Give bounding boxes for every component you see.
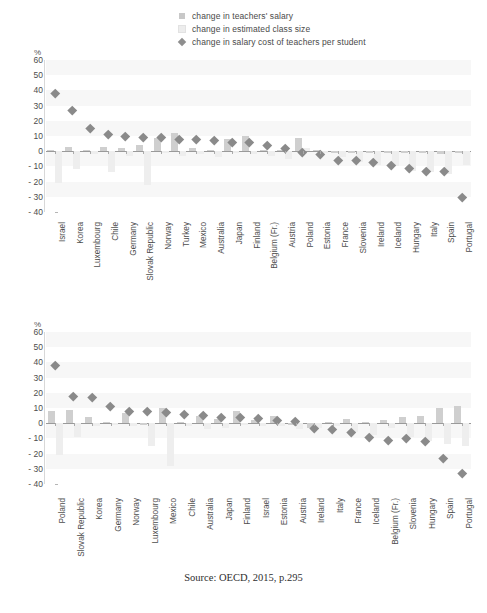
chart-column[interactable] [212, 332, 230, 484]
chart-column[interactable] [258, 60, 276, 212]
y-axis-tick-label: 50 [13, 70, 43, 80]
bar-teachers-salary [362, 422, 369, 424]
chart-column[interactable] [120, 332, 138, 484]
x-axis-tick [369, 423, 370, 426]
bar-teachers-salary [380, 420, 387, 423]
chart-column[interactable] [397, 332, 415, 484]
diamond-salary-cost-per-student [457, 469, 466, 478]
plot-area-lower [46, 332, 471, 484]
chart-column[interactable] [379, 332, 397, 484]
legend-item-salary: change in teachers' salary [176, 9, 476, 22]
x-axis-label-cell: Italy [418, 220, 436, 290]
x-axis-label-cell: Chile [175, 496, 193, 566]
chart-column[interactable] [312, 60, 330, 212]
x-axis-label-cell: Slovenia [347, 220, 365, 290]
diamond-salary-cost-per-student [457, 192, 466, 201]
chart-column[interactable] [360, 332, 378, 484]
bar-teachers-salary [437, 151, 444, 154]
chart-column[interactable] [305, 332, 323, 484]
chart-column[interactable] [135, 60, 153, 212]
chart-column[interactable] [138, 332, 156, 484]
x-axis-tick [214, 151, 215, 154]
x-axis-label-cell: Germany [101, 496, 119, 566]
chart-column[interactable] [157, 332, 175, 484]
x-axis-label-cell: Australia [205, 220, 223, 290]
bar-class-size [215, 151, 222, 157]
chart-column[interactable] [435, 60, 453, 212]
diamond-salary-cost-per-student [180, 409, 189, 418]
chart-column[interactable] [117, 60, 135, 212]
chart-column[interactable] [46, 60, 64, 212]
chart-column[interactable] [170, 60, 188, 212]
y-axis-tick-label: - 30 [13, 464, 43, 474]
diamond-salary-cost-per-student [51, 361, 60, 370]
y-axis-tick-label: - 20 [13, 449, 43, 459]
chart-column[interactable] [400, 60, 418, 212]
bar-teachers-salary [454, 406, 461, 423]
x-axis-tick [232, 151, 233, 154]
chart-column[interactable] [323, 332, 341, 484]
x-axis-label-cell: Spain [434, 496, 452, 566]
chart-column[interactable] [276, 60, 294, 212]
chart-column[interactable] [347, 60, 365, 212]
chart-column[interactable] [175, 332, 193, 484]
chart-column[interactable] [205, 60, 223, 212]
chart-column[interactable] [99, 60, 117, 212]
chart-column[interactable] [294, 60, 312, 212]
chart-column[interactable] [453, 332, 471, 484]
chart-column[interactable] [223, 60, 241, 212]
chart-column[interactable] [81, 60, 99, 212]
chart-column[interactable] [249, 332, 267, 484]
bar-class-size [388, 423, 395, 428]
y-axis-primary: 6050403020100- 10- 20- 30- 40 [10, 60, 43, 212]
bar-teachers-salary [136, 145, 143, 151]
chart-column[interactable] [342, 332, 360, 484]
chart-column[interactable] [194, 332, 212, 484]
chart-column[interactable] [101, 332, 119, 484]
chart-column[interactable] [231, 332, 249, 484]
chart-column[interactable] [416, 332, 434, 484]
x-axis-tick [406, 423, 407, 426]
x-axis-tick [314, 423, 315, 426]
bar-teachers-salary [100, 147, 107, 152]
x-axis-tick [427, 151, 428, 154]
bar-teachers-salary [47, 150, 54, 152]
bar-teachers-salary [177, 422, 184, 424]
chart-column[interactable] [83, 332, 101, 484]
chart-column[interactable] [64, 332, 82, 484]
diamond-salary-cost-per-student [139, 133, 148, 142]
chart-column[interactable] [152, 60, 170, 212]
legend-item-salary-cost: change in salary cost of teachers per st… [176, 35, 476, 48]
y-axis-tick-label: 30 [13, 373, 43, 383]
x-axis-tick [303, 151, 304, 154]
chart-column[interactable] [382, 60, 400, 212]
chart-column[interactable] [286, 332, 304, 484]
x-axis-tick [285, 151, 286, 154]
bar-class-size [91, 151, 98, 154]
chart-column[interactable] [188, 60, 206, 212]
y-axis-tick-label: - 40 [13, 479, 43, 489]
chart-column[interactable] [434, 332, 452, 484]
y-axis-tick-label: 40 [13, 357, 43, 367]
chart-column[interactable] [64, 60, 82, 212]
x-axis-tick [161, 151, 162, 154]
bar-class-size [93, 423, 100, 426]
diamond-salary-cost-per-student [192, 134, 201, 143]
legend-label-class-size: change in estimated class size [192, 24, 310, 34]
x-axis-tick [166, 423, 167, 426]
chart-column[interactable] [268, 332, 286, 484]
bar-teachers-salary [325, 422, 332, 424]
bar-class-size [241, 423, 248, 425]
chart-column[interactable] [365, 60, 383, 212]
chart-column[interactable] [46, 332, 64, 484]
x-axis-country-label: Portugal [465, 498, 474, 529]
bar-class-size [126, 151, 133, 156]
chart-legend: change in teachers' salary change in est… [176, 9, 476, 48]
x-axis-label-cell: Spain [435, 220, 453, 290]
chart-column[interactable] [453, 60, 471, 212]
chart-column[interactable] [418, 60, 436, 212]
chart-column[interactable] [241, 60, 259, 212]
chart-column[interactable] [329, 60, 347, 212]
bar-class-size [179, 151, 186, 156]
bar-class-size [268, 151, 275, 156]
